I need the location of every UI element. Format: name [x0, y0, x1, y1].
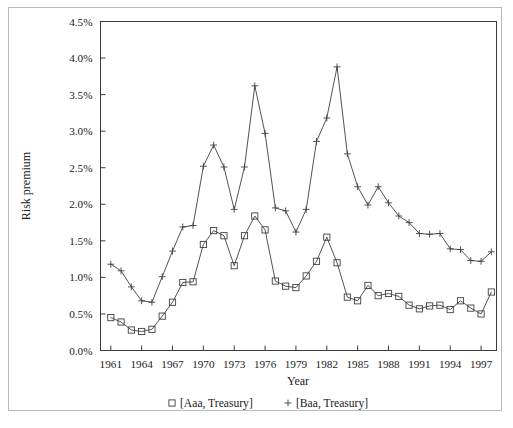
data-marker-square [169, 400, 175, 406]
series-polyline [111, 67, 492, 302]
x-tick-label: 1961 [100, 358, 122, 370]
legend-entry: [Aaa, Treasury] [169, 397, 253, 410]
series-polyline [111, 216, 492, 332]
y-tick-label: 3.0% [69, 125, 92, 137]
x-tick-label: 1964 [130, 358, 153, 370]
y-axis-tick-labels: 0.0%0.5%1.0%1.5%2.0%2.5%3.0%3.5%4.0%4.5% [69, 16, 92, 357]
x-axis-tick-marks [111, 346, 481, 351]
x-tick-label: 1967 [161, 358, 184, 370]
data-series [107, 63, 494, 305]
x-tick-label: 1997 [470, 358, 493, 370]
legend-entry-label: [Baa, Treasury] [296, 397, 368, 410]
x-tick-label: 1991 [408, 358, 430, 370]
data-series-layer [107, 63, 494, 334]
x-tick-label: 1988 [377, 358, 400, 370]
plot-area-frame [101, 22, 497, 351]
y-axis-title: Risk premium [19, 151, 33, 220]
legend-entry-label: [Aaa, Treasury] [180, 397, 253, 410]
y-axis-tick-marks [101, 22, 106, 351]
x-tick-label: 1982 [316, 358, 338, 370]
y-tick-label: 1.5% [69, 235, 92, 247]
y-tick-label: 2.5% [69, 162, 92, 174]
y-tick-label: 4.5% [69, 16, 92, 28]
y-tick-label: 4.0% [69, 52, 92, 64]
x-tick-label: 1979 [285, 358, 308, 370]
risk-premium-line-chart: 0.0%0.5%1.0%1.5%2.0%2.5%3.0%3.5%4.0%4.5%… [0, 0, 513, 428]
data-series [108, 213, 495, 335]
x-tick-label: 1973 [223, 358, 246, 370]
x-tick-label: 1994 [439, 358, 462, 370]
x-axis-title: Year [287, 374, 309, 388]
y-tick-label: 2.0% [69, 198, 92, 210]
chart-legend: [Aaa, Treasury][Baa, Treasury] [169, 397, 368, 410]
y-tick-label: 3.5% [69, 89, 92, 101]
x-tick-label: 1976 [254, 358, 277, 370]
x-tick-label: 1970 [192, 358, 215, 370]
figure-root: 0.0%0.5%1.0%1.5%2.0%2.5%3.0%3.5%4.0%4.5%… [0, 0, 513, 428]
x-tick-label: 1985 [346, 358, 369, 370]
legend-entry: [Baa, Treasury] [285, 397, 369, 410]
y-tick-label: 0.5% [69, 308, 92, 320]
y-tick-label: 1.0% [69, 271, 92, 283]
x-axis-tick-labels: 1961196419671970197319761979198219851988… [100, 358, 493, 370]
y-tick-label: 0.0% [69, 345, 92, 357]
